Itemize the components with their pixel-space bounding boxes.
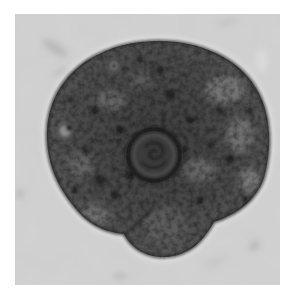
ring-vacuole-left — [57, 123, 73, 139]
cell-micrograph-svg — [15, 14, 280, 285]
nucleus — [127, 128, 181, 182]
micrograph — [15, 14, 280, 285]
ring-vacuole-top — [107, 59, 121, 73]
image-frame — [0, 0, 295, 300]
